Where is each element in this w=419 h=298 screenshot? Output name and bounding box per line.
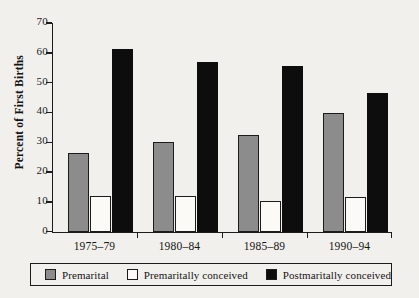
plot-area: 010203040506070 — [52, 23, 392, 233]
y-tick-label: 60 — [37, 45, 48, 57]
x-tick-mark — [391, 233, 392, 238]
bar — [238, 135, 259, 231]
bar — [260, 201, 281, 232]
y-tick-label: 50 — [37, 75, 48, 87]
x-axis-category-label: 1980–84 — [137, 240, 222, 252]
bar — [367, 93, 388, 232]
bar — [345, 197, 366, 232]
x-axis-category-label: 1975–79 — [52, 240, 137, 252]
legend-swatch — [266, 269, 277, 280]
chart-legend: PremaritalPremaritally conceivedPostmari… — [30, 263, 392, 286]
bar — [68, 153, 89, 231]
legend-label: Premaritally conceived — [144, 269, 248, 281]
bar-group — [323, 23, 388, 232]
x-tick-mark — [222, 233, 223, 238]
y-tick-label: 20 — [37, 164, 48, 176]
x-tick-mark — [307, 233, 308, 238]
bar — [197, 62, 218, 232]
bar-group — [153, 23, 218, 232]
legend-item: Premaritally conceived — [127, 269, 248, 281]
x-tick-mark — [137, 233, 138, 238]
y-tick-label: 30 — [37, 134, 48, 146]
y-axis-title: Percent of First Births — [13, 55, 27, 170]
legend-label: Postmaritally conceived — [283, 269, 391, 281]
bar — [323, 113, 344, 231]
bar — [90, 196, 111, 231]
y-tick-label: 70 — [37, 15, 48, 27]
bar — [153, 142, 174, 231]
bar — [175, 196, 196, 231]
y-tick-label: 10 — [37, 194, 48, 206]
legend-label: Premarital — [62, 269, 109, 281]
y-axis-line — [52, 23, 53, 233]
bar-group — [238, 23, 303, 232]
legend-swatch — [127, 269, 138, 280]
legend-item: Postmaritally conceived — [266, 269, 391, 281]
legend-swatch — [45, 269, 56, 280]
y-tick-label: 0 — [42, 224, 48, 236]
x-axis-category-label: 1985–89 — [222, 240, 307, 252]
y-tick-label: 40 — [37, 104, 48, 116]
x-axis-category-label: 1990–94 — [307, 240, 392, 252]
bar-group — [68, 23, 133, 232]
bar — [112, 49, 133, 232]
bar — [282, 66, 303, 232]
bar-chart-figure: Percent of First Births 010203040506070 … — [0, 0, 419, 298]
legend-item: Premarital — [45, 269, 109, 281]
